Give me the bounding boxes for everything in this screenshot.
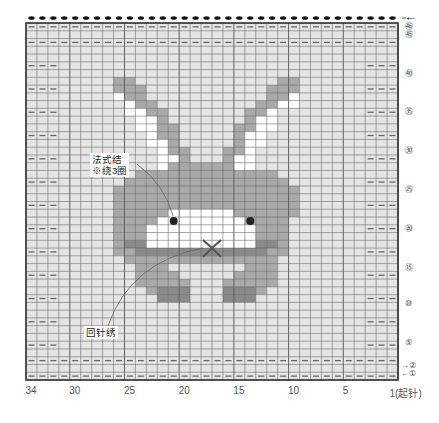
row-label: ⑮: [405, 261, 413, 272]
column-label: 1(起针): [390, 385, 422, 400]
column-label: 30: [69, 385, 80, 396]
row-direction-arrow: ←: [404, 12, 417, 22]
column-label: 5: [343, 385, 349, 396]
backstitch-callout: 回针绣: [84, 326, 118, 339]
row-label: ㊵: [405, 67, 413, 78]
french-knot-callout: 法式结 ※绕3圈: [90, 153, 129, 177]
column-label: 20: [179, 385, 190, 396]
backstitch-label: 回针绣: [86, 327, 116, 338]
row-label: ←①: [401, 369, 416, 378]
row-label: ㊺: [405, 28, 413, 39]
row-label: ㉟: [405, 105, 413, 116]
row-label: ㉚: [405, 144, 413, 155]
column-label: 15: [233, 385, 244, 396]
column-label: 25: [124, 385, 135, 396]
french-knot-label: 法式结: [92, 154, 127, 165]
row-label: ⑤: [405, 338, 412, 347]
row-label: ㉕: [405, 183, 413, 194]
column-label: 10: [288, 385, 299, 396]
french-knot-note: ※绕3圈: [92, 165, 127, 176]
bind-off-dots: [28, 16, 406, 20]
column-label: 34: [25, 385, 36, 396]
row-label: ⑩: [405, 299, 412, 308]
knitting-chart: [0, 0, 439, 423]
row-label: ⑳: [405, 222, 413, 233]
